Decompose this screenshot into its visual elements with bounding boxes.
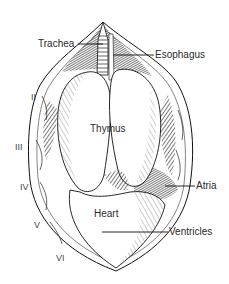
label-esophagus: Esophagus [155, 50, 205, 60]
rib-label-vi: VI [56, 253, 65, 263]
label-thymus: Thymus [90, 124, 126, 134]
rib-label-ii: II [31, 92, 36, 102]
label-atria: Atria [196, 181, 217, 191]
rib-label-iv: IV [20, 182, 29, 192]
rib-label-v: V [34, 220, 40, 230]
label-ventricles: Ventricles [169, 227, 212, 237]
label-heart: Heart [94, 209, 118, 219]
anatomy-illustration [0, 0, 229, 284]
label-trachea: Trachea [38, 39, 74, 49]
rib-label-iii: III [15, 142, 23, 152]
